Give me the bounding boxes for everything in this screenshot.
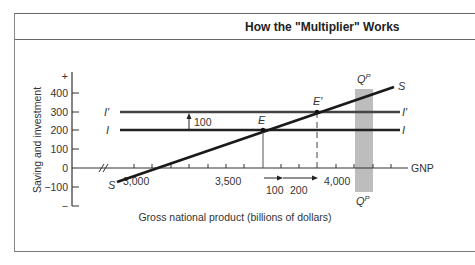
x-axis-gnp-label: GNP xyxy=(411,162,434,174)
y-tick-300: 300 xyxy=(50,106,68,118)
y-tick-200: 200 xyxy=(50,124,68,136)
i-prime-label-left: I′ xyxy=(104,106,110,118)
point-e xyxy=(261,128,265,132)
y-tick-neg100: −100 xyxy=(44,181,68,193)
s-label-end: S xyxy=(398,80,406,92)
shift-right-arrowhead-2-icon xyxy=(312,176,318,181)
y-tick-0: 0 xyxy=(62,162,68,174)
s-label-start: S xyxy=(108,179,116,191)
y-axis-label: Saving and investment xyxy=(31,87,43,193)
x-axis-label: Gross national product (billions of doll… xyxy=(138,211,331,223)
e-label: E xyxy=(258,114,266,126)
y-tick-400: 400 xyxy=(50,87,68,99)
shift-right-arrowhead-1-icon xyxy=(277,176,283,181)
qp-label-top: QP xyxy=(357,72,371,85)
y-tick-100: 100 xyxy=(50,143,68,155)
y-tick-plus: + xyxy=(62,70,68,82)
x-tick-4000: 4,000 xyxy=(324,175,350,187)
y-tick-minus: − xyxy=(62,200,68,212)
e-prime-label: E′ xyxy=(313,95,323,107)
shift-right-label-200: 200 xyxy=(290,184,308,196)
i-prime-label-right: I′ xyxy=(402,106,408,118)
point-e-prime xyxy=(315,110,319,114)
qp-label-bottom: QP xyxy=(356,194,370,207)
x-tick-3500: 3,500 xyxy=(215,175,241,187)
shift-up-label: 100 xyxy=(194,116,212,128)
shift-up-arrowhead-icon xyxy=(187,113,192,119)
shift-right-label-100: 100 xyxy=(266,184,284,196)
i-label-right: I xyxy=(402,124,405,136)
potential-output-band xyxy=(355,89,373,192)
i-label-left: I xyxy=(106,124,109,136)
y-ticks xyxy=(72,93,79,206)
